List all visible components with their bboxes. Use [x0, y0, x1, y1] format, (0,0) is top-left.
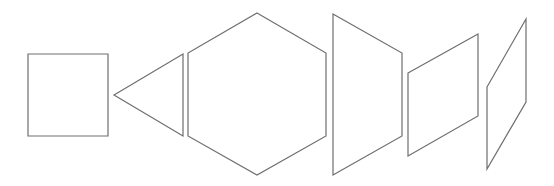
square-shape [28, 54, 108, 136]
trapezoid-shape [333, 14, 402, 175]
triangle-shape [114, 54, 183, 136]
hexagon-shape [188, 13, 326, 175]
shape-diagram [0, 0, 554, 186]
parallelogram-shape-2 [487, 19, 526, 169]
parallelogram-shape-1 [408, 34, 478, 156]
